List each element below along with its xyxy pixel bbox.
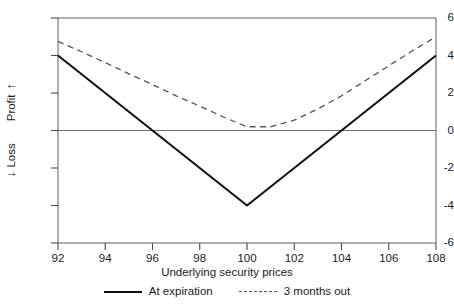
y-axis-label: ↓ Loss Profit ↑ <box>2 18 20 243</box>
legend-label: At expiration <box>149 285 213 298</box>
y-axis-label-profit: Profit <box>5 94 18 121</box>
x-tick-labels: 92 94 96 98 100 102 104 106 108 <box>0 253 454 267</box>
x-tick-label: 102 <box>285 253 304 265</box>
y-axis-ticks <box>51 18 58 243</box>
x-tick-label: 96 <box>146 253 159 265</box>
x-tick-label: 104 <box>332 253 351 265</box>
y-tick-label: -2 <box>432 162 454 174</box>
legend-label: 3 months out <box>284 285 350 298</box>
x-axis-label: Underlying security prices <box>0 266 454 279</box>
x-tick-label: 100 <box>237 253 256 265</box>
legend-item-3-months-out: 3 months out <box>239 285 350 298</box>
y-tick-label: -4 <box>432 200 454 212</box>
x-tick-label: 92 <box>52 253 65 265</box>
y-tick-label: 2 <box>432 87 454 99</box>
legend-swatch-dashed-line-icon <box>239 291 277 292</box>
profit-loss-chart: 6 4 2 0 -2 -4 -6 92 94 96 98 100 102 104… <box>0 0 454 307</box>
up-arrow-icon: ↑ <box>5 84 18 89</box>
y-tick-label: 6 <box>432 12 454 24</box>
x-tick-label: 106 <box>379 253 398 265</box>
x-axis-ticks <box>58 243 436 250</box>
down-arrow-icon: ↓ <box>5 172 18 177</box>
x-tick-label: 94 <box>99 253 112 265</box>
y-tick-label: -6 <box>432 237 454 249</box>
x-tick-label: 108 <box>426 253 445 265</box>
y-tick-label: 0 <box>432 125 454 137</box>
y-tick-label: 4 <box>432 50 454 62</box>
chart-legend: At expiration 3 months out <box>0 285 454 298</box>
legend-item-at-expiration: At expiration <box>104 285 213 298</box>
series-3-months-out <box>58 37 436 127</box>
legend-swatch-solid-line-icon <box>104 291 142 293</box>
x-tick-label: 98 <box>193 253 206 265</box>
y-axis-label-loss: Loss <box>5 143 18 167</box>
